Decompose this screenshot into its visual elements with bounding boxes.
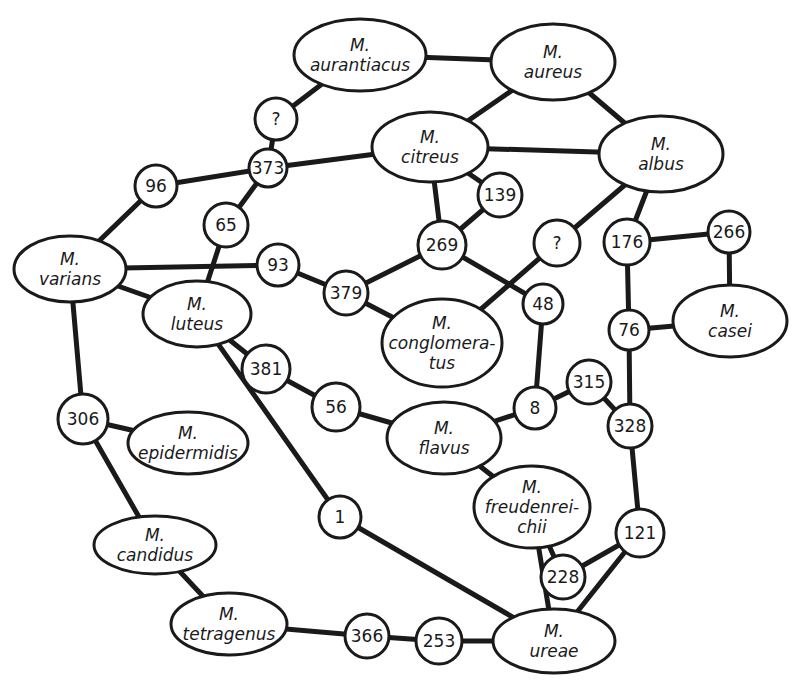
species-node-tetragenus: M.tetragenus	[171, 593, 287, 655]
number-node-n253: 253	[416, 618, 462, 664]
species-node-aurantiacus: M.aurantiacus	[294, 19, 426, 91]
number-label: 373	[252, 158, 284, 178]
species-label-line: M.	[219, 604, 239, 624]
species-label-line: chii	[517, 517, 547, 537]
species-label-line: M.	[651, 134, 671, 154]
species-label-line: casei	[708, 321, 752, 341]
species-node-varians: M.varians	[14, 236, 126, 302]
number-label: ?	[271, 109, 280, 129]
number-label: 56	[325, 397, 347, 417]
species-label-line: ureae	[529, 641, 578, 661]
species-label-line: aurantiacus	[310, 55, 410, 75]
species-node-epidermidis: M.epidermidis	[128, 412, 248, 474]
number-node-n373: 373	[249, 149, 287, 187]
number-node-n269: 269	[418, 221, 466, 269]
species-label-line: tetragenus	[183, 624, 276, 644]
species-node-citreus: M.citreus	[372, 112, 488, 182]
species-label-line: varians	[39, 269, 101, 289]
number-node-n381: 381	[242, 345, 290, 393]
number-node-n176: 176	[604, 219, 650, 265]
number-node-n266: 266	[708, 211, 750, 253]
species-label-line: conglomera-	[389, 333, 496, 353]
species-label-line: epidermidis	[138, 443, 238, 463]
number-label: 269	[426, 235, 458, 255]
number-node-n379: 379	[324, 271, 368, 315]
nodes-layer: M.aurantiacusM.aureusM.citreusM.albusM.v…	[14, 19, 787, 673]
species-label-line: albus	[638, 154, 684, 174]
number-label: 381	[250, 359, 282, 379]
species-node-freudenreichii: M.freudenrei-chii	[474, 466, 590, 548]
number-label: 121	[624, 523, 656, 543]
species-label-line: M.	[145, 525, 165, 545]
number-node-n366: 366	[345, 614, 389, 658]
number-node-n96: 96	[135, 165, 177, 207]
number-label: 266	[713, 222, 745, 242]
number-node-n56: 56	[312, 383, 360, 431]
number-node-n121: 121	[616, 509, 664, 557]
number-node-n139: 139	[478, 173, 522, 217]
species-node-candidus: M.candidus	[94, 516, 216, 574]
species-label-line: flavus	[418, 438, 469, 458]
number-node-n76: 76	[609, 310, 649, 350]
species-label-line: M.	[350, 35, 370, 55]
species-label-line: M.	[432, 313, 452, 333]
number-label: 379	[330, 283, 362, 303]
number-node-n48: 48	[523, 284, 563, 324]
species-label-line: M.	[178, 423, 198, 443]
number-node-q2: ?	[534, 220, 580, 266]
number-label: 93	[267, 255, 289, 275]
species-label-line: aureus	[524, 62, 582, 82]
number-label: 176	[611, 232, 643, 252]
species-label-line: M.	[544, 621, 564, 641]
species-node-casei: M.casei	[673, 285, 787, 357]
species-node-flavus: M.flavus	[387, 402, 501, 474]
number-node-n8: 8	[514, 387, 556, 429]
number-node-n65: 65	[204, 203, 248, 247]
number-label: 366	[351, 626, 383, 646]
species-label-line: M.	[434, 418, 454, 438]
number-node-n93: 93	[257, 244, 299, 286]
species-label-line: M.	[720, 301, 740, 321]
species-node-albus: M.albus	[599, 116, 723, 192]
species-label-line: citreus	[401, 147, 459, 167]
species-node-conglomeratus: M.conglomera-tus	[382, 299, 502, 387]
species-label-line: luteus	[171, 314, 223, 334]
species-label-line: candidus	[117, 545, 194, 565]
species-label-line: M.	[420, 127, 440, 147]
species-label-line: tus	[429, 353, 455, 373]
number-label: 76	[618, 320, 640, 340]
species-label-line: M.	[187, 294, 207, 314]
species-label-line: M.	[522, 477, 542, 497]
species-label-line: M.	[60, 249, 80, 269]
species-label-line: M.	[543, 42, 563, 62]
number-node-n315: 315	[567, 360, 611, 404]
number-label: 306	[67, 409, 99, 429]
number-node-n306: 306	[58, 394, 108, 444]
number-label: 8	[530, 398, 541, 418]
species-node-aureus: M.aureus	[491, 24, 615, 100]
number-label: 328	[614, 416, 646, 436]
species-node-ureae: M.ureae	[493, 609, 615, 673]
number-label: 315	[573, 372, 605, 392]
number-label: ?	[552, 233, 561, 253]
number-label: 139	[484, 185, 516, 205]
micrococcus-relationship-diagram: M.aurantiacusM.aureusM.citreusM.albusM.v…	[0, 0, 797, 683]
number-label: 253	[423, 631, 455, 651]
number-node-n228: 228	[541, 555, 585, 599]
species-node-luteus: M.luteus	[143, 281, 251, 347]
number-node-q1: ?	[255, 98, 297, 140]
number-label: 1	[335, 507, 346, 527]
number-label: 48	[532, 294, 554, 314]
number-label: 65	[215, 215, 237, 235]
number-label: 96	[145, 176, 167, 196]
species-label-line: freudenrei-	[485, 497, 580, 517]
number-label: 228	[547, 567, 579, 587]
number-node-n1: 1	[319, 496, 361, 538]
number-node-n328: 328	[608, 404, 652, 448]
